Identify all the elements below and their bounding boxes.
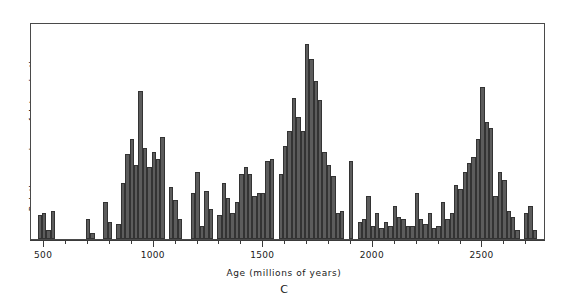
x-tick-minor [240, 240, 241, 244]
histogram-bar [349, 161, 353, 239]
x-tick-major [372, 240, 373, 247]
x-tick-minor [284, 240, 285, 244]
histogram-bar [270, 159, 274, 239]
x-tick-minor [416, 240, 417, 244]
bar-series [31, 24, 544, 239]
x-tick-major [481, 240, 482, 247]
x-tick-major [43, 240, 44, 247]
x-tick-label: 1000 [141, 250, 165, 260]
x-tick-minor [350, 240, 351, 244]
histogram-bar [90, 233, 94, 240]
x-tick-minor [525, 240, 526, 244]
x-tick-minor [306, 240, 307, 244]
x-tick-minor [460, 240, 461, 244]
x-tick-label: 500 [34, 250, 52, 260]
histogram-bar [533, 230, 537, 239]
x-tick-minor [438, 240, 439, 244]
x-tick-minor [328, 240, 329, 244]
x-tick-label: 1500 [250, 250, 274, 260]
x-tick-label: 2000 [360, 250, 384, 260]
histogram-bar [209, 209, 213, 239]
x-tick-minor [109, 240, 110, 244]
histogram-bar [178, 219, 182, 239]
plot-area [30, 23, 545, 240]
histogram-bar [340, 211, 344, 239]
x-axis-title: Age (millions of years) [0, 268, 568, 278]
x-axis-line [30, 240, 545, 241]
x-tick-label: 2500 [469, 250, 493, 260]
histogram-bar [160, 137, 164, 239]
x-tick-minor [503, 240, 504, 244]
histogram-bar [515, 230, 519, 239]
panel-label: C [0, 283, 568, 296]
x-tick-minor [197, 240, 198, 244]
x-tick-minor [65, 240, 66, 244]
histogram-bar [51, 211, 55, 239]
x-tick-minor [218, 240, 219, 244]
x-tick-major [153, 240, 154, 247]
x-tick-minor [87, 240, 88, 244]
x-tick-minor [175, 240, 176, 244]
x-tick-minor [394, 240, 395, 244]
histogram-bar [108, 222, 112, 239]
x-tick-minor [131, 240, 132, 244]
x-tick-major [262, 240, 263, 247]
histogram-figure: Relative numbers of determinations 50010… [0, 0, 568, 305]
